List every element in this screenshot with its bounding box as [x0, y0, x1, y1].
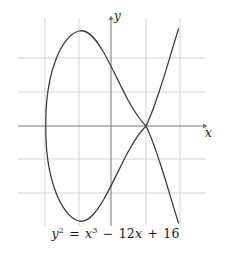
- equation-term1-exponent: 3: [92, 226, 97, 235]
- y-axis-label: y: [114, 10, 121, 22]
- elliptic-curve-figure: y x y2 = x3 − 12x + 16: [0, 0, 231, 256]
- y-axis-arrowhead: [108, 16, 113, 21]
- equation-caption: y2 = x3 − 12x + 16: [0, 226, 231, 241]
- equation-minus-sign: −: [102, 226, 115, 241]
- equation-term2-coefficient: 12: [119, 226, 135, 241]
- equation-plus-sign: +: [146, 226, 159, 241]
- equation-term2-variable: x: [135, 226, 142, 241]
- x-axis-label: x: [205, 127, 212, 139]
- equation-lhs-exponent: 2: [59, 226, 64, 235]
- equation-equals-sign: =: [68, 226, 81, 241]
- curve-unbounded-branch-upper: [146, 29, 179, 126]
- equation-term3-constant: 16: [163, 226, 179, 241]
- plot-canvas: [0, 0, 231, 256]
- curve-unbounded-branch-lower: [146, 126, 179, 223]
- equation-lhs-variable: y: [51, 226, 58, 241]
